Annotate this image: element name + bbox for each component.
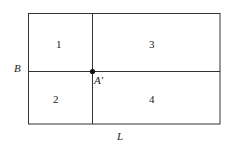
outer-rectangle [29,14,221,125]
side-label-l: L [116,130,123,142]
region-2-label: 2 [53,93,59,105]
region-4-label: 4 [149,93,155,105]
side-label-b: B [14,62,21,74]
rectangle-diagram: 1 2 3 4 B L A′ [0,0,232,148]
region-3-label: 3 [149,38,155,50]
region-1-label: 1 [56,38,62,50]
point-label: A′ [93,74,104,86]
